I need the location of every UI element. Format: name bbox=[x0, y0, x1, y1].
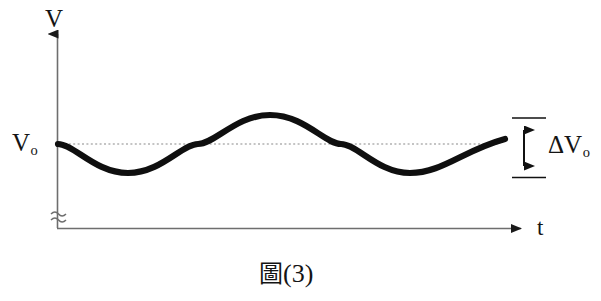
y-axis-label: V bbox=[45, 6, 63, 31]
baseline-label-subscript: o bbox=[30, 142, 38, 158]
amplitude-dimension-marker bbox=[512, 118, 546, 178]
amplitude-value-label: ΔVo bbox=[548, 132, 590, 160]
amplitude-label-main: ΔV bbox=[548, 131, 582, 158]
baseline-label-main: V bbox=[12, 129, 30, 156]
y-axis-break-icon bbox=[51, 212, 66, 222]
figure-container: V t Vo ΔVo 圖(3) bbox=[0, 0, 601, 301]
figure-caption-cjk: 圖 bbox=[259, 260, 283, 288]
amplitude-label-subscript: o bbox=[582, 144, 590, 160]
figure-caption-number: (3) bbox=[283, 259, 313, 288]
voltage-time-plot bbox=[0, 0, 601, 301]
figure-caption: 圖(3) bbox=[259, 261, 313, 287]
baseline-value-label: Vo bbox=[12, 130, 38, 158]
x-axis-label: t bbox=[537, 216, 543, 239]
